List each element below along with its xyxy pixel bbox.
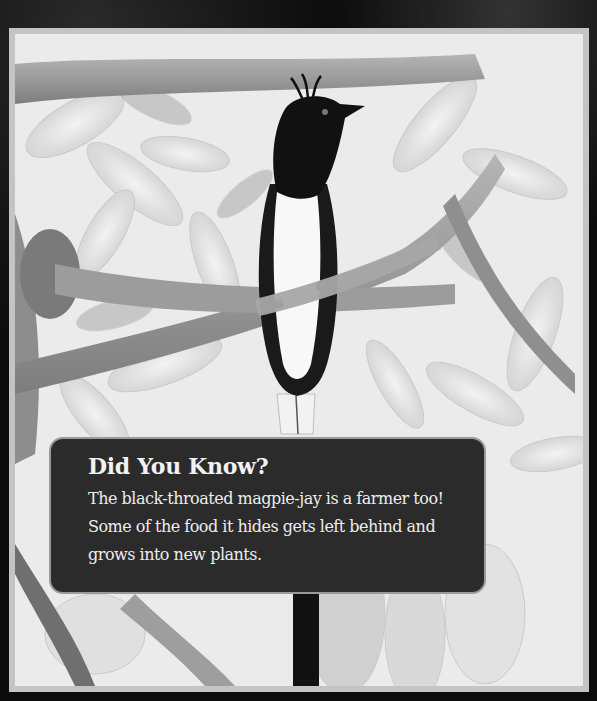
callout-title: Did You Know? [88, 451, 468, 481]
did-you-know-callout: Did You Know? The black-throated magpie-… [49, 437, 486, 594]
callout-body: The black-throated magpie-jay is a farme… [88, 485, 468, 569]
